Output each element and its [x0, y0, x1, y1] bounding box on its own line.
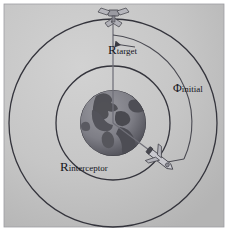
label-r-interceptor-subscript: interceptor: [69, 163, 108, 173]
label-r-interceptor: Rinterceptor: [60, 158, 108, 174]
label-phi-initial: Φinitial: [173, 79, 203, 95]
diagram-canvas: [0, 0, 228, 231]
label-phi-symbol: Φ: [173, 81, 182, 95]
label-r-target-symbol: R: [108, 42, 117, 57]
label-r-target-subscript: target: [117, 46, 137, 56]
label-phi-subscript: initial: [182, 84, 203, 94]
orbital-rendezvous-diagram: Rtarget Rinterceptor Φinitial: [0, 0, 228, 231]
label-r-interceptor-symbol: R: [60, 159, 69, 174]
label-r-target: Rtarget: [108, 41, 137, 57]
